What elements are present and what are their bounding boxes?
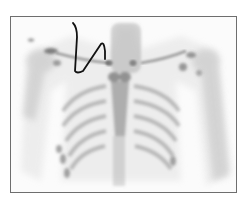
bone-scan-image [11, 17, 237, 193]
scan-image-frame [10, 16, 237, 193]
